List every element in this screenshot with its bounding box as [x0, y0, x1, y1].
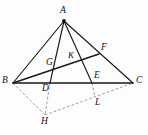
point-label-A: A: [60, 6, 66, 16]
geometry-figure: A B C D E F G H K L: [0, 0, 148, 135]
point-label-H: H: [41, 117, 48, 127]
segment-BH: [13, 83, 45, 115]
point-label-L: L: [95, 98, 100, 108]
point-label-G: G: [46, 58, 53, 68]
segment-HC: [45, 83, 133, 115]
point-label-D: D: [42, 84, 49, 94]
segment-EL: [92, 83, 95, 97]
vertex-dots: [62, 19, 66, 23]
dashed-segments: [13, 83, 133, 115]
vertex-dot-A: [62, 19, 66, 23]
point-label-K: K: [68, 51, 74, 60]
geometry-canvas: [0, 0, 148, 135]
point-label-F: F: [101, 43, 107, 53]
point-label-E: E: [94, 71, 100, 81]
point-label-C: C: [136, 76, 142, 86]
point-label-B: B: [2, 76, 8, 86]
